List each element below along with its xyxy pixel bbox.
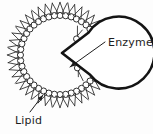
lipid-tail — [38, 7, 47, 16]
enzyme-label: Enzyme — [108, 36, 153, 49]
lipid-tail — [16, 27, 23, 36]
lipid-tail — [78, 71, 83, 81]
lipid-tail — [12, 33, 24, 34]
lipid-tail — [73, 94, 82, 103]
lipid-tail — [86, 87, 89, 99]
lipid-tail — [31, 11, 34, 23]
lipid-tail — [81, 7, 82, 19]
micelle-core-shape — [62, 17, 153, 89]
lipid-enzyme-figure: Lipid micelle with enzyme cleft Enzyme L… — [0, 0, 153, 134]
lipid-tail — [81, 91, 82, 103]
lipid-tail — [79, 11, 88, 18]
lipid-tail — [12, 68, 21, 77]
lipid-tail — [38, 7, 39, 19]
diagram-canvas: Lipid micelle with enzyme cleft Enzyme L… — [0, 0, 153, 134]
lipid-tail — [16, 81, 28, 84]
lipid-tail — [12, 76, 24, 77]
lipid-label: Lipid — [15, 114, 42, 127]
lipid-tail — [77, 30, 82, 36]
